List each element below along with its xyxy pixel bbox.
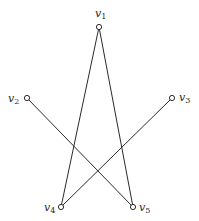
edge-v1-v5 bbox=[99, 27, 133, 207]
labels-group: v1v2v3v4v5 bbox=[8, 7, 190, 215]
vertex-label-v5: v5 bbox=[139, 201, 150, 215]
edges-group bbox=[27, 27, 172, 207]
vertex-v3 bbox=[169, 95, 174, 100]
graph-svg: v1v2v3v4v5 bbox=[0, 0, 199, 221]
vertex-v4 bbox=[58, 204, 63, 209]
vertex-label-v1: v1 bbox=[95, 7, 106, 21]
vertex-label-v4: v4 bbox=[44, 201, 55, 215]
vertex-label-v2: v2 bbox=[8, 92, 19, 106]
vertex-v5 bbox=[130, 204, 135, 209]
vertex-label-v3: v3 bbox=[179, 91, 190, 105]
edge-v1-v4 bbox=[61, 27, 99, 207]
vertex-v1 bbox=[96, 24, 101, 29]
vertex-v2 bbox=[24, 95, 29, 100]
graph-diagram: v1v2v3v4v5 bbox=[0, 0, 199, 221]
